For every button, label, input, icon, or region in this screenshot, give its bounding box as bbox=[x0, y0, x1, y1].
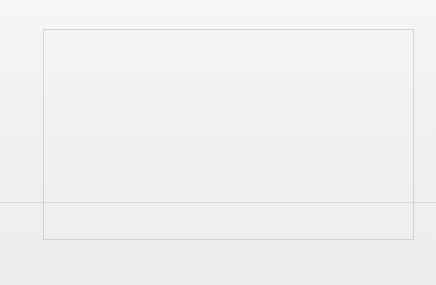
stacked-area-chart bbox=[43, 29, 414, 240]
x-axis bbox=[43, 240, 414, 280]
chart-figure bbox=[0, 0, 436, 285]
y-axis bbox=[0, 29, 39, 240]
plot-border bbox=[43, 29, 414, 240]
plot-area bbox=[43, 29, 414, 240]
